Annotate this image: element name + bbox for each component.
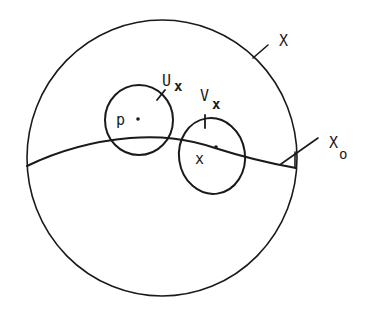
subspace-xo-label: X <box>329 134 338 152</box>
space-x-label: X <box>279 32 288 50</box>
point-p-label: p <box>116 111 125 129</box>
neighborhood-v-label: V <box>200 87 209 105</box>
subspace-xo-subscript: o <box>339 146 347 162</box>
point-x-label: x <box>195 150 204 168</box>
space-x-leader <box>253 45 268 58</box>
subspace-xo-leader <box>281 138 318 164</box>
diagram-canvas: X X o U x p V x x <box>0 0 370 313</box>
subspace-xo-curve <box>27 137 296 168</box>
point-x-dot <box>214 145 218 149</box>
neighborhood-v-subscript: x <box>212 96 221 112</box>
neighborhood-u-subscript: x <box>174 78 183 94</box>
neighborhood-u-label: U <box>162 72 171 90</box>
point-p-dot <box>136 117 140 121</box>
space-x-circle <box>27 20 297 296</box>
